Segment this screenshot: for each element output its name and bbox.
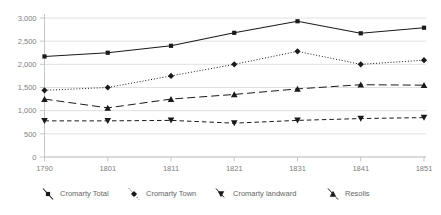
diamond-marker	[41, 87, 47, 93]
legend-label: Resolis	[345, 189, 370, 198]
x-axis-tick-label: 1841	[352, 164, 369, 173]
x-axis-tick-label: 1811	[163, 164, 179, 173]
square-marker	[422, 26, 426, 30]
legend-item-3[interactable]: Resolis	[328, 189, 370, 200]
legend-item-1[interactable]: Cromarty Town	[129, 189, 196, 200]
x-axis-tick-label: 1851	[416, 164, 433, 173]
x-axis-tick-label: 1801	[99, 164, 116, 173]
square-marker	[42, 54, 46, 58]
y-axis-tick-marks	[40, 18, 45, 157]
diamond-marker	[168, 73, 174, 79]
y-axis-tick-labels: 05001,0001,5002,0002,5003,000	[18, 14, 37, 162]
series-lines-group	[45, 21, 425, 123]
population-line-chart: 05001,0001,5002,0002,5003,000 1790180118…	[0, 0, 441, 215]
y-axis-tick-label: 2,500	[18, 37, 37, 46]
gridlines-group	[45, 18, 427, 157]
y-axis-tick-label: 0	[32, 153, 36, 162]
y-axis-tick-label: 2,000	[18, 60, 37, 69]
square-marker	[359, 31, 363, 35]
series-markers-0	[42, 19, 426, 58]
chart-legend: Cromarty TotalCromarty TownCromarty land…	[43, 189, 370, 200]
series-line-0	[45, 21, 425, 56]
chart-canvas: 05001,0001,5002,0002,5003,000 1790180118…	[0, 0, 441, 215]
legend-label: Cromarty landward	[233, 189, 296, 198]
diamond-marker	[358, 61, 364, 67]
square-marker	[169, 44, 173, 48]
x-axis-tick-label: 1790	[36, 164, 53, 173]
diamond-marker	[105, 84, 111, 90]
x-axis-tick-labels: 1790180118111821183118411851	[36, 164, 432, 173]
diamond-marker	[421, 57, 427, 63]
y-axis-tick-label: 3,000	[18, 14, 37, 23]
diamond-marker	[294, 48, 300, 54]
legend-item-2[interactable]: Cromarty landward	[216, 189, 296, 200]
series-markers-1	[41, 48, 427, 93]
square-marker	[46, 192, 50, 196]
y-axis-tick-label: 1,000	[18, 106, 37, 115]
series-markers-group	[41, 19, 427, 126]
x-axis-tick-label: 1831	[289, 164, 306, 173]
y-axis-tick-label: 500	[24, 130, 37, 139]
diamond-marker	[131, 191, 137, 197]
x-axis-tick-marks	[45, 157, 425, 162]
y-axis-tick-label: 1,500	[18, 83, 37, 92]
legend-label: Cromarty Town	[146, 189, 196, 198]
square-marker	[295, 19, 299, 23]
x-axis-tick-label: 1821	[226, 164, 243, 173]
diamond-marker	[231, 61, 237, 67]
legend-label: Cromarty Total	[60, 189, 109, 198]
square-marker	[106, 51, 110, 55]
square-marker	[232, 31, 236, 35]
legend-item-0[interactable]: Cromarty Total	[43, 189, 109, 200]
